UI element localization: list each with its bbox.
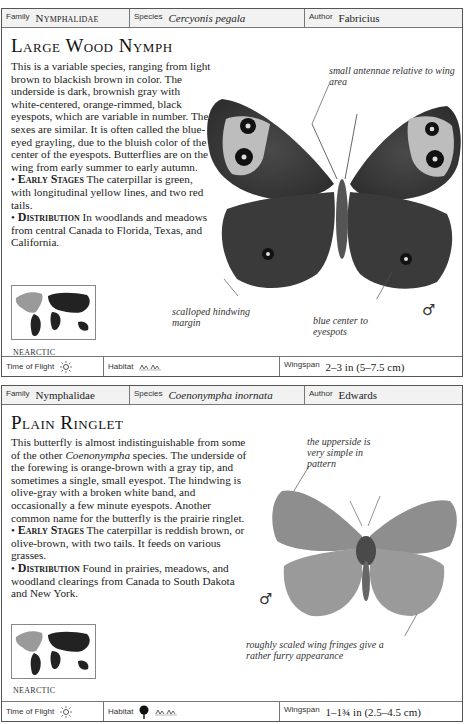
callout-wing-fringes: roughly scaled wing fringes give a rathe… [246,639,396,661]
family-value: Nymphalidae [36,389,95,401]
wingspan-field: Wingspan 2–3 in (5–7.5 cm) [280,357,462,376]
description-text: This is a variable species, ranging from… [11,60,211,173]
callout-upperside: the upperside is very simple in pattern [307,436,387,469]
info-bar: Time of Flight Habitat Wingspan 2–3 in (… [2,356,462,376]
family-label: Family [6,12,30,21]
range-map [11,285,96,340]
grassland-icon [155,708,177,716]
sun-icon [60,361,72,373]
time-of-flight-field: Time of Flight [2,702,104,721]
description-text: This butterfly is almost indistinguishab… [11,436,247,524]
sun-icon [60,706,72,718]
time-of-flight-label: Time of Flight [6,362,54,371]
male-symbol: ♂ [422,301,435,319]
habitat-field: Habitat [104,357,280,376]
distribution-heading: Distribution [18,210,80,224]
species-description: This is a variable species, ranging from… [11,60,211,249]
species-value: Coenonympha inornata [168,389,272,401]
species-description: This butterfly is almost indistinguishab… [11,436,247,600]
callout-hindwing-margin-text: scalloped hindwing margin [172,306,250,328]
wingspan-value: 1–1¾ in (2.5–4.5 cm) [326,706,421,718]
early-stages-heading: Early Stages [18,172,84,186]
species-field: Species Cercyonis pegala [130,9,305,27]
distribution-paragraph: • Distribution In woodlands and meadows … [11,211,211,249]
tree-icon [139,705,149,719]
author-label: Author [309,389,333,398]
info-bar: Time of Flight Habitat Wingspan 1–1¾ in … [2,701,462,721]
family-field: Family Nymphalidae [2,9,130,27]
callout-hindwing-margin: scalloped hindwing margin [172,306,252,328]
callout-eyespots: blue center to eyespots [313,315,373,337]
callout-eyespots-text: blue center to eyespots [313,315,368,337]
species-entry-plain-ringlet: Family Nymphalidae Species Coenonympha i… [1,385,463,722]
grassland-icon [139,363,161,371]
wingspan-value: 2–3 in (5–7.5 cm) [326,361,405,373]
habitat-label: Habitat [108,707,133,716]
early-stages-paragraph: • Early Stages The caterpillar is green,… [11,173,211,211]
wingspan-label: Wingspan [284,360,320,369]
distribution-heading: Distribution [18,561,80,575]
taxonomy-bar: Family Nymphalidae Species Cercyonis peg… [2,9,462,28]
callout-wing-fringes-text: roughly scaled wing fringes give a rathe… [246,639,384,661]
author-value: Fabricius [339,12,380,24]
callout-antennae: small antennae relative to wing area [329,65,462,87]
family-field: Family Nymphalidae [2,386,130,404]
callout-antennae-text: small antennae relative to wing area [329,65,455,87]
time-of-flight-field: Time of Flight [2,357,104,376]
wingspan-label: Wingspan [284,705,320,714]
species-label: Species [134,12,162,21]
time-of-flight-label: Time of Flight [6,707,54,716]
species-field: Species Coenonympha inornata [130,386,305,404]
species-title: Large Wood Nymph [11,35,173,57]
world-map-icon [12,286,96,340]
author-label: Author [309,12,333,21]
male-symbol: ♂ [259,590,272,608]
species-label: Species [134,389,162,398]
range-map [11,624,96,679]
plain-ringlet-illustration [262,466,462,636]
wingspan-field: Wingspan 1–1¾ in (2.5–4.5 cm) [280,702,462,721]
taxonomy-bar: Family Nymphalidae Species Coenonympha i… [2,386,462,405]
large-wood-nymph-illustration [202,84,464,299]
early-stages-heading: Early Stages [18,523,84,537]
distribution-paragraph: • Distribution Found in prairies, meadow… [11,562,247,600]
author-field: Author Fabricius [305,9,462,27]
author-field: Author Edwards [305,386,462,404]
habitat-label: Habitat [108,362,133,371]
species-title: Plain Ringlet [11,412,123,434]
habitat-field: Habitat [104,702,280,721]
family-label: Family [6,389,30,398]
callout-upperside-text: the upperside is very simple in pattern [307,436,370,469]
species-value: Cercyonis pegala [168,12,245,24]
region-label: NEARCTIC [13,686,55,695]
early-stages-paragraph: • Early Stages The caterpillar is reddis… [11,524,247,562]
species-entry-large-wood-nymph: Family Nymphalidae Species Cercyonis peg… [1,8,463,377]
genus-name: Coenonympha [65,449,130,461]
author-value: Edwards [339,389,378,401]
world-map-icon [12,625,96,679]
family-value: Nymphalidae [36,12,99,24]
